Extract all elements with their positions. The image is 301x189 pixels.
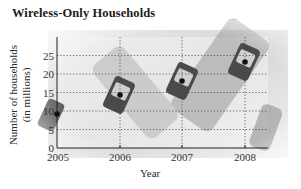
svg-text:25: 25	[43, 50, 55, 62]
svg-text:2006: 2006	[109, 151, 132, 163]
data-point-2005	[54, 111, 60, 117]
data-point-2007	[179, 78, 185, 84]
svg-text:20: 20	[43, 68, 55, 80]
chart-plot: 0 5 10 15 20 25 2005 2006 2007 2008	[0, 0, 301, 189]
svg-text:5: 5	[49, 124, 55, 136]
svg-text:2008: 2008	[234, 151, 257, 163]
svg-text:15: 15	[43, 87, 55, 99]
svg-text:2007: 2007	[171, 151, 194, 163]
data-point-2008	[242, 59, 248, 65]
svg-text:2005: 2005	[47, 151, 70, 163]
data-point-2006	[117, 92, 123, 98]
svg-text:10: 10	[43, 105, 55, 117]
